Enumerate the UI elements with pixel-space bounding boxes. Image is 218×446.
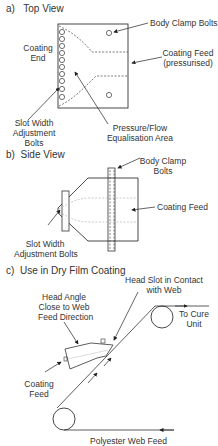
label-body-clamp-bolts: Body Clamp Bolts	[150, 18, 218, 28]
label-coating-feed-use: CoatingFeed	[22, 379, 56, 399]
label-coating-feed-side: Coating Feed	[157, 202, 208, 212]
section-a-title: a) Top View	[6, 3, 64, 14]
label-pressure-flow: Pressure/FlowEqualisation Area	[100, 123, 180, 143]
section-c-title: c) Use in Dry Film Coating	[6, 265, 126, 276]
label-slot-width-bolts: Slot WidthAdjustmentBolts	[12, 118, 56, 148]
label-head-angle: Head AngleClose to WebFeed Direction	[38, 292, 90, 322]
label-to-cure-unit: To CureUnit	[176, 309, 212, 329]
label-coating-end: CoatingEnd	[18, 43, 58, 63]
label-slot-width-side: Slot WidthAdjustment Bolts	[14, 239, 76, 259]
label-body-clamp-side: Body ClampBolts	[138, 156, 188, 176]
label-head-slot: Head Slot in Contactwith Web	[124, 275, 204, 295]
label-polyester-web-feed: Polyester Web Feed	[90, 436, 167, 446]
section-b-title: b) Side View	[6, 149, 65, 160]
top-view-drawing	[28, 23, 162, 124]
label-coating-feed: Coating Feed(pressurised)	[160, 48, 216, 68]
